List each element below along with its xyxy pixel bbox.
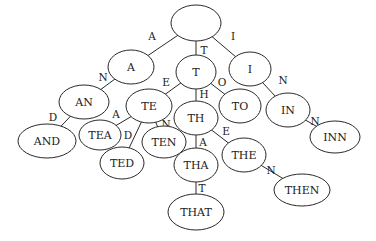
node-label: TED xyxy=(110,157,134,170)
node-label: INN xyxy=(323,131,347,144)
trie-node-tea: TEA xyxy=(79,120,121,150)
trie-node-a: A xyxy=(108,50,154,84)
node-label: TE xyxy=(141,100,156,113)
node-label: THA xyxy=(184,159,210,172)
node-label: THE xyxy=(232,149,257,162)
edge-label: E xyxy=(162,76,170,88)
edge-label: O xyxy=(218,76,227,88)
trie-node-t: T xyxy=(176,55,216,89)
trie-node-ted: TED xyxy=(100,147,144,179)
trie-node-th: TH xyxy=(174,101,218,135)
trie-node-that: THAT xyxy=(168,194,224,230)
node-label: IN xyxy=(281,104,295,117)
trie-node-the: THE xyxy=(222,138,266,172)
edge-label: A xyxy=(198,136,207,148)
edge-label: A xyxy=(147,30,156,42)
trie-diagram: ATINEOHNDADNNAENT ATIANTETOINANDTEATEDTE… xyxy=(0,0,376,241)
trie-node-root xyxy=(171,5,221,41)
edge-label: N xyxy=(278,74,287,86)
trie-node-in: IN xyxy=(266,93,310,127)
trie-node-tha: THA xyxy=(174,148,218,182)
trie-node-and: AND xyxy=(18,124,76,158)
node-label: THAT xyxy=(180,206,212,219)
edge-label: H xyxy=(199,88,208,100)
node-label: AND xyxy=(33,135,61,148)
edge-label: A xyxy=(111,108,120,120)
edge-label: E xyxy=(222,125,230,137)
node-label: TO xyxy=(232,100,248,113)
node-label: I xyxy=(248,63,252,76)
edge-label: D xyxy=(124,129,132,141)
node-label: TEN xyxy=(152,136,177,149)
trie-node-an: AN xyxy=(59,85,109,119)
node-label: T xyxy=(192,66,200,79)
edge-label: N xyxy=(98,71,107,83)
trie-node-then: THEN xyxy=(274,174,330,206)
node-label: TEA xyxy=(88,129,112,142)
node-label: TH xyxy=(188,112,205,125)
edge-label: T xyxy=(198,182,205,194)
node-label: A xyxy=(126,61,136,74)
trie-node-to: TO xyxy=(219,89,261,123)
trie-node-i: I xyxy=(229,52,271,86)
edge-label: I xyxy=(231,30,235,42)
trie-node-inn: INN xyxy=(310,121,360,153)
node-ellipse xyxy=(171,5,221,41)
edge-label: T xyxy=(200,44,207,56)
edge-label: D xyxy=(49,111,57,123)
node-label: AN xyxy=(74,96,93,109)
edge-label: N xyxy=(266,164,275,176)
node-label: THEN xyxy=(285,184,320,197)
trie-node-te: TE xyxy=(126,89,172,123)
